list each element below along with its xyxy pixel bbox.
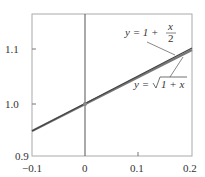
y-tick-label: 1.1 [5,43,19,55]
label-sqrt: y = [133,78,149,90]
sqrt-radicand: 1 + x [161,78,184,90]
y-tick-label: 0.9 [15,150,29,162]
chart: 1.1 1.0 0.9 −0.1 0 0.1 0.2 y = 1 + x 2 y… [0,0,205,177]
label-linear: y = 1 + [124,26,158,38]
y-tick-label: 1.0 [5,98,19,110]
fraction-denominator: 2 [168,32,174,44]
x-tick-label: 0 [82,162,88,174]
x-tick-label: 0.1 [130,162,144,174]
x-tick-label: 0.2 [183,162,197,174]
fraction-numerator: x [167,20,173,32]
x-tick-label: −0.1 [22,162,42,174]
tangent-point [83,102,87,106]
